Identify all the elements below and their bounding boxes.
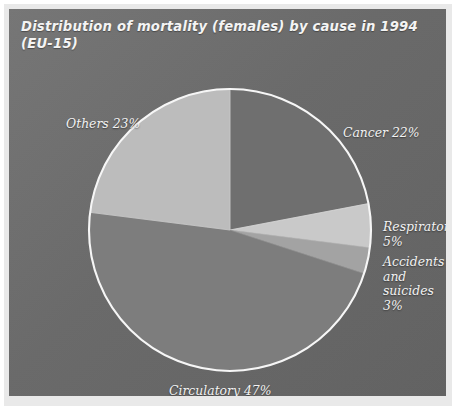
pie-label-others: Others 23% (66, 117, 140, 132)
pie-chart (9, 9, 446, 396)
chart-title-block: Distribution of mortality (females) by c… (21, 18, 421, 52)
chart-panel: Distribution of mortality (females) by c… (9, 9, 446, 396)
pie-label-cancer: Cancer 22% (343, 126, 420, 141)
pie-label-respiratory: Respiratory 5% (383, 220, 446, 249)
pie-slice-others[interactable] (90, 89, 230, 230)
pie-label-circulatory: Circulatory 47% (169, 384, 271, 396)
figure-container: Distribution of mortality (females) by c… (0, 0, 456, 414)
chart-title: Distribution of mortality (females) by c… (21, 18, 421, 52)
pie-label-accidents: Accidents and suicides 3% (383, 255, 446, 313)
pie-chart-svg (9, 9, 446, 396)
